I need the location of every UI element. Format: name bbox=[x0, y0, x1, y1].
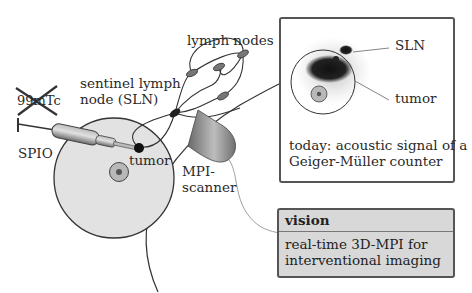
vision-text-line1: real-time 3D-MPI for bbox=[285, 236, 441, 252]
vision-title: vision bbox=[285, 212, 330, 228]
scanner-label-line2: scanner bbox=[182, 179, 236, 195]
tumor-label: tumor bbox=[129, 152, 171, 168]
syringe-plunger bbox=[18, 124, 55, 130]
today-panel: SLN tumor today: acoustic signal of a Ge… bbox=[279, 17, 455, 183]
spio-label: SPIO bbox=[18, 145, 53, 161]
diagram-canvas: 99mTc SPIO sentinel lymph node (SLN) lym… bbox=[0, 0, 472, 293]
sentinel-label-line1: sentinel lymph bbox=[80, 75, 181, 91]
today-tumor-label: tumor bbox=[395, 90, 437, 106]
sentinel-label-line2: node (SLN) bbox=[80, 91, 158, 107]
vision-panel: vision real-time 3D-MPI for intervention… bbox=[277, 208, 455, 278]
today-caption-line2: Geiger-Müller counter bbox=[289, 153, 443, 169]
tumor-core bbox=[116, 169, 122, 175]
vision-divider bbox=[279, 231, 453, 232]
vision-text-line2: interventional imaging bbox=[285, 252, 441, 268]
scanner-label-line1: MPI- bbox=[182, 163, 215, 179]
isotope-label: 99mTc bbox=[17, 93, 61, 109]
today-caption-line1: today: acoustic signal of a bbox=[289, 137, 467, 153]
lymph-nodes-label: lymph nodes bbox=[187, 32, 274, 48]
mpi-scanner-head bbox=[188, 110, 236, 162]
vision-text: real-time 3D-MPI for interventional imag… bbox=[285, 236, 441, 268]
today-sln-label: SLN bbox=[395, 37, 425, 53]
